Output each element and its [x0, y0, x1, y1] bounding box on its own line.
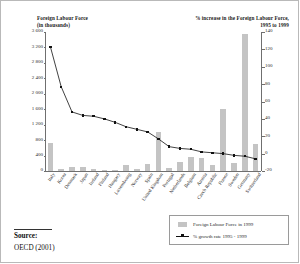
- line-point: [60, 86, 62, 88]
- legend-line-label: % growth rate 1995 - 1999: [193, 234, 247, 239]
- left-tick-label: 1 600: [32, 106, 46, 111]
- line-point: [244, 155, 246, 157]
- line-point: [125, 126, 127, 128]
- right-tick-label: -20: [262, 167, 272, 172]
- line-point: [82, 114, 84, 116]
- line-point: [71, 111, 73, 113]
- right-tick-label: 140: [262, 28, 273, 33]
- line-point: [211, 152, 213, 154]
- line-point: [103, 118, 105, 120]
- left-tick-label: 3 600: [32, 28, 46, 33]
- right-axis-title-line1: % increase in the Foreign Labour Force,: [161, 15, 289, 22]
- plot-area: [45, 32, 261, 171]
- source-block: Source: OECD (2001): [14, 229, 94, 253]
- source-label: Source:: [14, 232, 94, 241]
- line-marker-icon: [176, 234, 189, 239]
- left-axis-title: Foreign Labour Force (in thousands): [37, 15, 88, 29]
- left-tick-label: 2 000: [32, 90, 46, 95]
- x-axis-label-text: Italy: [47, 172, 56, 182]
- line-point: [168, 145, 170, 147]
- line-point: [146, 131, 148, 133]
- right-tick-label: 120: [262, 46, 273, 51]
- right-tick-label: 20: [262, 133, 270, 138]
- line-point: [179, 147, 181, 149]
- x-axis-label-text: United Kingdom: [141, 172, 164, 202]
- right-y-axis: -20020406080100120140: [261, 32, 262, 171]
- line-point: [233, 154, 235, 156]
- right-tick-label: 40: [262, 115, 270, 120]
- source-rule: [14, 229, 52, 230]
- line-series-markers: [45, 32, 261, 171]
- line-point: [222, 152, 224, 154]
- left-tick-label: 2 800: [32, 59, 46, 64]
- line-point: [254, 158, 256, 160]
- legend: Foreign Labour Force in 1999 % growth ra…: [169, 215, 289, 245]
- legend-bar-label: Foreign Labour Force in 1999: [193, 222, 253, 227]
- bar-swatch-icon: [178, 222, 187, 227]
- line-point: [200, 151, 202, 153]
- line-point: [190, 148, 192, 150]
- line-point: [114, 121, 116, 123]
- legend-item-line: % growth rate 1995 - 1999: [170, 230, 288, 242]
- line-point: [136, 128, 138, 130]
- right-axis-title: % increase in the Foreign Labour Force, …: [161, 15, 289, 29]
- source-value: OECD (2001): [14, 243, 94, 253]
- line-point: [157, 138, 159, 140]
- right-tick-label: 0: [262, 150, 268, 155]
- left-axis-title-line1: Foreign Labour Force: [37, 15, 88, 22]
- line-point: [92, 115, 94, 117]
- left-tick-label: 1 200: [32, 121, 46, 126]
- right-tick-label: 80: [262, 81, 270, 86]
- x-axis-category-labels: ItalyKoreaDenmarkJapanIrelandFinlandHung…: [45, 172, 261, 216]
- right-tick-label: 60: [262, 98, 270, 103]
- left-tick-label: 3 200: [32, 44, 46, 49]
- right-tick-label: 100: [262, 63, 273, 68]
- line-point: [49, 46, 51, 48]
- figure-frame: Foreign Labour Force (in thousands) % in…: [0, 0, 299, 263]
- legend-item-bar: Foreign Labour Force in 1999: [170, 218, 288, 230]
- left-tick-label: 2 400: [32, 75, 46, 80]
